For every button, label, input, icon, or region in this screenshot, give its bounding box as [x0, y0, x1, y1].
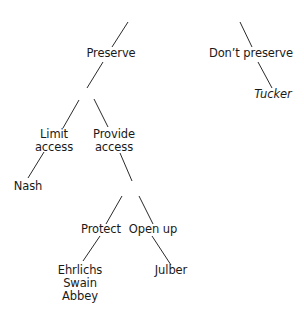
edge-root-preserve	[112, 22, 128, 47]
node-limit-access-line2: access	[35, 141, 73, 154]
edge-split-provide	[94, 99, 108, 127]
node-tucker: Tucker	[254, 88, 291, 101]
edge-limit-nash	[28, 152, 44, 178]
node-protect: Protect	[81, 223, 121, 236]
node-provide-access-line2: access	[95, 141, 133, 154]
node-abbey: Abbey	[62, 290, 98, 303]
edge-openup-julber	[152, 236, 171, 265]
node-preserve: Preserve	[86, 47, 135, 60]
edge-split-limit	[63, 100, 79, 128]
edge-provide-split	[120, 153, 132, 181]
edge-split-protect	[106, 196, 122, 224]
edge-split-openup	[139, 196, 153, 224]
node-julber: Julber	[155, 264, 187, 277]
edge-protect-ehrlichs	[83, 236, 100, 261]
edge-dontpreserve-tucker	[258, 62, 272, 88]
edge-root-dontpreserve	[240, 22, 252, 47]
node-dont-preserve: Don’t preserve	[209, 47, 293, 60]
node-open-up: Open up	[129, 223, 177, 236]
node-nash: Nash	[14, 180, 43, 193]
edge-preserve-split	[87, 62, 103, 88]
